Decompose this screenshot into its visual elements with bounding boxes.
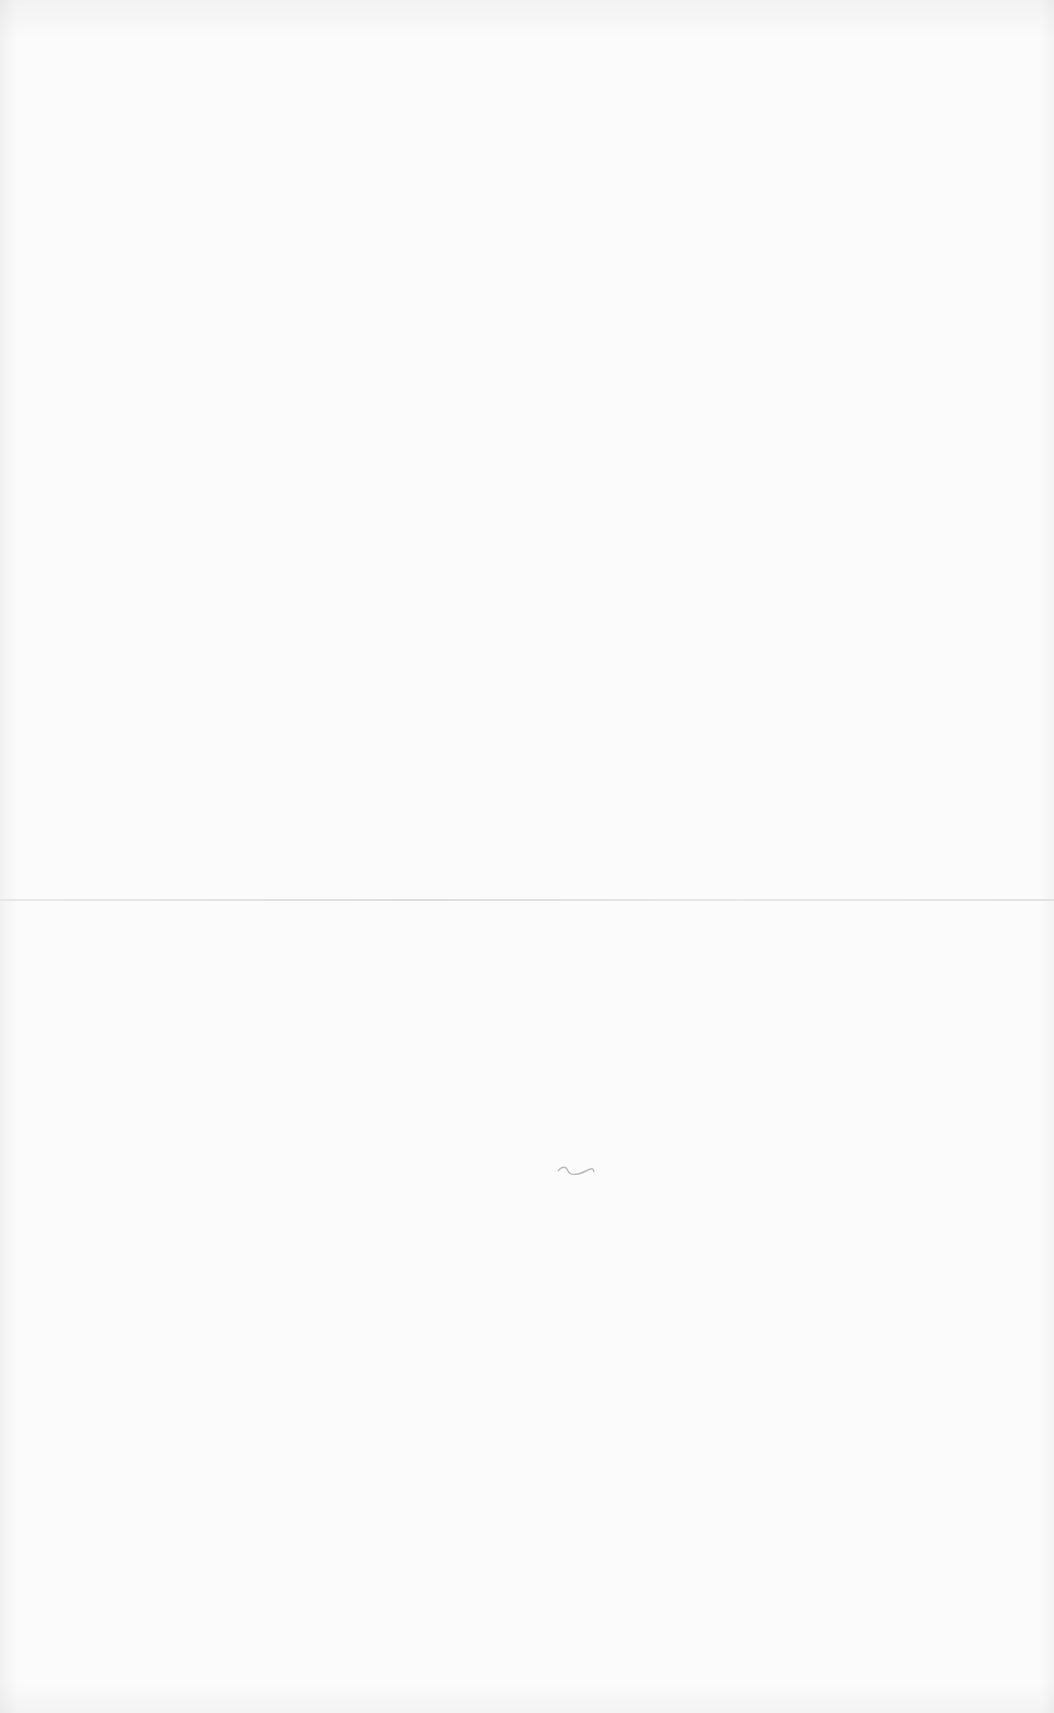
scanned-page xyxy=(0,0,1054,1713)
fold-line xyxy=(0,899,1054,901)
pencil-squiggle xyxy=(556,1164,596,1178)
